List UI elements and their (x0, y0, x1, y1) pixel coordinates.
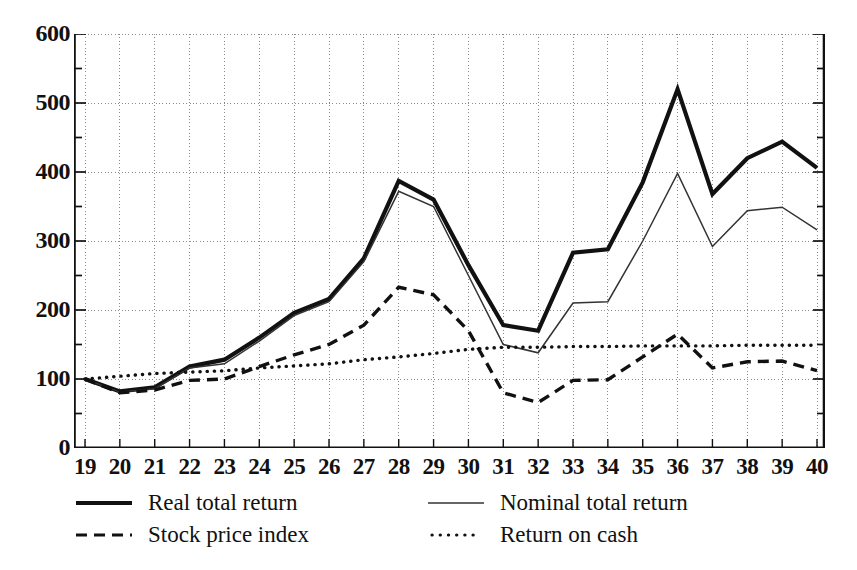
series-line-3 (85, 287, 817, 402)
legend-item: Stock price index (74, 521, 309, 549)
y-tick-label: 600 (12, 21, 70, 45)
grid-lines (74, 34, 825, 448)
y-tick-label: 500 (12, 90, 70, 114)
data-series (85, 89, 817, 402)
y-tick-label: 200 (12, 297, 70, 321)
legend-item: Nominal total return (426, 489, 688, 517)
axis-ticks (75, 34, 824, 448)
x-axis-tick-labels: 1920212223242526272829303132333435363738… (0, 452, 857, 486)
legend-label: Return on cash (500, 522, 638, 548)
series-line-2 (85, 173, 817, 392)
legend-label: Real total return (148, 490, 297, 516)
legend-label: Nominal total return (500, 490, 688, 516)
y-axis-tick-labels: 6005004003002001000 (0, 0, 70, 470)
chart-figure: 6005004003002001000 19202122232425262728… (0, 0, 857, 570)
chart-legend: Real total returnNominal total returnSto… (74, 489, 834, 559)
legend-item: Real total return (74, 489, 297, 517)
solid-thick-line-sample (74, 493, 136, 513)
x-tick-label: 40 (797, 452, 837, 482)
plot-area (74, 34, 825, 448)
y-tick-label: 400 (12, 159, 70, 183)
dashed-line-sample (74, 525, 136, 545)
y-tick-label: 100 (12, 366, 70, 390)
chart-svg (74, 34, 825, 448)
solid-thin-line-sample (426, 493, 488, 513)
legend-item: Return on cash (426, 521, 638, 549)
legend-label: Stock price index (148, 522, 309, 548)
dotted-line-sample (426, 525, 488, 545)
y-tick-label: 300 (12, 228, 70, 252)
